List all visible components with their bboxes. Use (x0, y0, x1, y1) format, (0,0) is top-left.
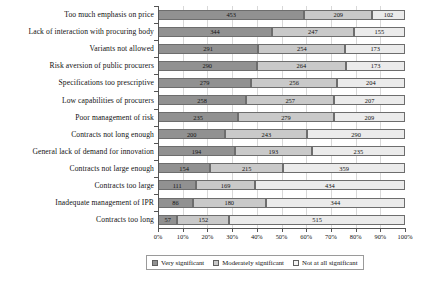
bar-segment: 279 (238, 112, 333, 122)
segment-value-label: 279 (200, 79, 210, 86)
segment-value-label: 247 (308, 28, 318, 35)
bar-track: 200243290 (158, 126, 422, 143)
bar-segment: 264 (257, 61, 347, 71)
segment-value-label: 291 (203, 45, 213, 52)
bar-segment: 258 (158, 95, 246, 105)
segment-value-label: 344 (210, 28, 220, 35)
bar-segment: 290 (158, 61, 257, 71)
bar-segment: 154 (158, 163, 210, 173)
stacked-bar: 57152515 (158, 215, 405, 225)
bar-segment: 434 (255, 180, 405, 190)
chart-row: Lack of interaction with procuring body3… (0, 23, 422, 40)
segment-value-label: 194 (192, 148, 202, 155)
chart-row: Inadequate management of IPR86180344 (0, 194, 422, 211)
bar-segment: 173 (345, 44, 405, 54)
chart-row: Poor management of risk235279209 (0, 109, 422, 126)
segment-value-label: 207 (365, 97, 375, 104)
bar-segment: 257 (246, 95, 334, 105)
x-axis-tick (207, 228, 208, 232)
bar-segment: 453 (158, 10, 304, 20)
legend-swatch-icon (213, 260, 219, 266)
x-axis-tick-label: 80% (350, 233, 362, 241)
legend-item[interactable]: Very significant (152, 259, 204, 267)
segment-value-label: 57 (165, 216, 171, 223)
chart-row: Low capabilities of procurers258257207 (0, 91, 422, 108)
segment-value-label: 257 (285, 97, 295, 104)
stacked-bar: 453209102 (158, 10, 405, 20)
bar-segment: 152 (177, 215, 229, 225)
x-axis-tick-label: 70% (325, 233, 337, 241)
stacked-bar: 290264173 (158, 61, 405, 71)
bar-track: 453209102 (158, 6, 422, 23)
category-label: Lack of interaction with procuring body (0, 27, 158, 36)
segment-value-label: 155 (375, 28, 385, 35)
bar-segment: 57 (158, 215, 177, 225)
segment-value-label: 515 (312, 216, 322, 223)
legend-label: Very significant (161, 259, 204, 267)
segment-value-label: 344 (331, 199, 341, 206)
bar-track: 290264173 (158, 57, 422, 74)
legend-item[interactable]: Moderately significant (213, 259, 284, 267)
segment-value-label: 209 (364, 114, 374, 121)
x-axis-tick (331, 228, 332, 232)
bar-segment: 344 (266, 198, 405, 208)
x-axis-tick (232, 228, 233, 232)
legend-item[interactable]: Not at all significant (293, 259, 358, 267)
category-label: Inadequate management of IPR (0, 198, 158, 207)
x-axis-tick-label: 60% (300, 233, 312, 241)
stacked-bar: 279256204 (158, 78, 405, 88)
bar-segment: 204 (337, 78, 405, 88)
bar-segment: 243 (225, 129, 307, 139)
bar-track: 86180344 (158, 194, 422, 211)
x-axis-tick-label: 50% (276, 233, 288, 241)
bar-segment: 235 (158, 112, 238, 122)
segment-value-label: 193 (269, 148, 279, 155)
segment-value-label: 235 (193, 114, 203, 121)
stacked-bar: 200243290 (158, 129, 405, 139)
stacked-bar: 194193235 (158, 146, 405, 156)
plot-area: Too much emphasis on price453209102Lack … (0, 6, 422, 228)
segment-value-label: 173 (370, 45, 380, 52)
legend-label: Not at all significant (302, 259, 358, 267)
bar-segment: 102 (372, 10, 405, 20)
segment-value-label: 169 (221, 182, 231, 189)
chart-row: General lack of demand for innovation194… (0, 143, 422, 160)
segment-value-label: 200 (187, 131, 197, 138)
segment-value-label: 453 (226, 11, 236, 18)
segment-value-label: 434 (325, 182, 335, 189)
bar-segment: 290 (307, 129, 405, 139)
segment-value-label: 264 (297, 62, 307, 69)
chart-row: Contracts not long enough200243290 (0, 126, 422, 143)
category-label: Contracts not long enough (0, 130, 158, 139)
x-axis-tick-label: 0% (154, 233, 163, 241)
bar-segment: 235 (312, 146, 405, 156)
stacked-bar: 111169434 (158, 180, 405, 190)
x-axis-tick-label: 10% (177, 233, 189, 241)
bar-segment: 193 (235, 146, 312, 156)
x-axis-tick (380, 228, 381, 232)
legend-label: Moderately significant (222, 259, 284, 267)
segment-value-label: 209 (333, 11, 343, 18)
x-axis-tick (282, 228, 283, 232)
x-axis-tick-label: 20% (202, 233, 214, 241)
segment-value-label: 102 (384, 11, 394, 18)
bar-track: 344247155 (158, 23, 422, 40)
category-label: General lack of demand for innovation (0, 147, 158, 156)
segment-value-label: 235 (354, 148, 364, 155)
segment-value-label: 359 (339, 165, 349, 172)
bar-track: 57152515 (158, 211, 422, 228)
category-label: Contracts too long (0, 215, 158, 224)
stacked-bar: 344247155 (158, 27, 405, 37)
category-label: Variants not allowed (0, 44, 158, 53)
stacked-bar: 86180344 (158, 198, 405, 208)
bar-track: 154215359 (158, 160, 422, 177)
category-label: Contracts not large enough (0, 164, 158, 173)
segment-value-label: 258 (197, 97, 207, 104)
chart-row: Too much emphasis on price453209102 (0, 6, 422, 23)
bar-segment: 207 (334, 95, 405, 105)
bar-segment: 515 (229, 215, 405, 225)
legend-swatch-icon (293, 260, 299, 266)
bar-segment: 279 (158, 78, 251, 88)
bar-track: 111169434 (158, 177, 422, 194)
bar-segment: 155 (354, 27, 405, 37)
